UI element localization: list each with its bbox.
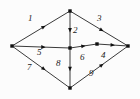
arrowhead-1 bbox=[41, 24, 47, 30]
arrowhead-3 bbox=[99, 27, 105, 33]
edge-9 bbox=[70, 46, 128, 88]
edge-label-8: 8 bbox=[56, 59, 61, 68]
edge-label-3: 3 bbox=[97, 14, 102, 23]
arrowhead-8 bbox=[68, 67, 72, 71]
arrowhead-2 bbox=[68, 28, 72, 32]
edge-label-9: 9 bbox=[89, 69, 94, 78]
edge-1 bbox=[12, 11, 70, 46]
edge-label-5: 5 bbox=[37, 48, 42, 57]
node-center bbox=[68, 46, 71, 49]
node-right bbox=[126, 44, 129, 47]
node-top bbox=[68, 9, 71, 12]
edge-label-7: 7 bbox=[27, 63, 32, 72]
node-bottom bbox=[68, 86, 71, 89]
edge-label-6: 6 bbox=[80, 53, 85, 62]
edge-label-1: 1 bbox=[28, 14, 33, 23]
figure-canvas: 123456789 bbox=[0, 0, 140, 99]
graph-svg bbox=[0, 0, 140, 99]
node-mid-right bbox=[95, 42, 98, 45]
node-left bbox=[10, 44, 13, 47]
edge-label-4: 4 bbox=[101, 51, 106, 60]
arrowhead-4 bbox=[110, 43, 115, 47]
edge-label-2: 2 bbox=[73, 26, 78, 35]
